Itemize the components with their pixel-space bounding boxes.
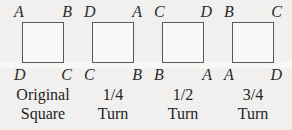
bottom-corner-labels: D C xyxy=(14,67,72,83)
square-shape xyxy=(22,22,64,63)
corner-label-bottom-left: D xyxy=(14,67,26,83)
top-corner-labels: D A xyxy=(84,3,142,20)
panel-caption: 1/4 Turn xyxy=(98,85,129,123)
panel-caption: 3/4 Turn xyxy=(238,85,269,123)
caption-line-2: Turn xyxy=(168,104,199,123)
corner-label-top-left: C xyxy=(154,4,165,20)
panel-caption: Original Square xyxy=(16,85,69,123)
panel-caption: 1/2 Turn xyxy=(168,85,199,123)
bottom-corner-labels: A D xyxy=(224,67,282,83)
corner-label-top-left: D xyxy=(84,4,96,20)
corner-label-top-right: B xyxy=(62,4,72,20)
corner-label-top-left: A xyxy=(14,4,24,20)
square-shape xyxy=(232,22,274,63)
caption-line-1: 3/4 xyxy=(238,85,269,104)
corner-label-bottom-left: B xyxy=(154,67,164,83)
caption-line-2: Square xyxy=(16,104,69,123)
panel-three-quarter-turn: B C A D 3/4 Turn xyxy=(218,0,288,123)
corner-label-top-right: C xyxy=(271,4,282,20)
panel-original-square: A B D C Original Square xyxy=(8,0,78,123)
corner-label-top-right: D xyxy=(200,4,212,20)
corner-label-bottom-right: B xyxy=(132,67,142,83)
corner-label-bottom-right: D xyxy=(270,67,282,83)
caption-line-2: Turn xyxy=(98,104,129,123)
corner-label-bottom-left: C xyxy=(84,67,95,83)
rotation-diagram: A B D C Original Square D A C B 1/4 Turn… xyxy=(8,0,288,123)
top-corner-labels: C D xyxy=(154,3,212,20)
corner-label-top-right: A xyxy=(132,4,142,20)
bottom-corner-labels: B A xyxy=(154,67,212,83)
corner-label-bottom-right: A xyxy=(202,67,212,83)
top-corner-labels: B C xyxy=(224,3,282,20)
bottom-corner-labels: C B xyxy=(84,67,142,83)
corner-label-bottom-left: A xyxy=(224,67,234,83)
caption-line-2: Turn xyxy=(238,104,269,123)
panel-half-turn: C D B A 1/2 Turn xyxy=(148,0,218,123)
top-corner-labels: A B xyxy=(14,3,72,20)
square-shape xyxy=(162,22,204,63)
caption-line-1: 1/4 xyxy=(98,85,129,104)
square-shape xyxy=(92,22,134,63)
caption-line-1: 1/2 xyxy=(168,85,199,104)
corner-label-top-left: B xyxy=(224,4,234,20)
caption-line-1: Original xyxy=(16,85,69,104)
corner-label-bottom-right: C xyxy=(61,67,72,83)
panel-quarter-turn: D A C B 1/4 Turn xyxy=(78,0,148,123)
